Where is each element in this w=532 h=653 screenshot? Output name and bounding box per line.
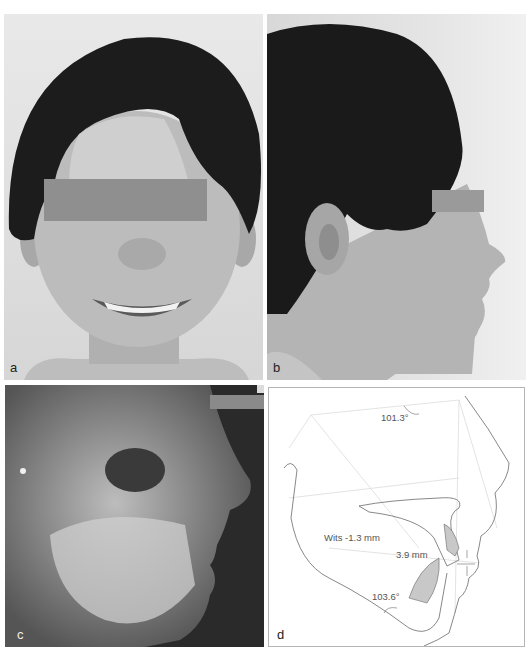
overjet-label: 3.9 mm	[396, 549, 428, 560]
panel-cephalometric-radiograph: c	[5, 385, 264, 647]
panel-label-d: d	[277, 628, 284, 641]
xray-illustration	[5, 385, 264, 647]
panel-label-a: a	[10, 361, 17, 374]
angle-bottom-label: 103.6°	[372, 591, 400, 602]
wits-label: Wits -1.3 mm	[324, 532, 380, 543]
profile-face-illustration	[267, 14, 526, 380]
panel-label-c: c	[17, 628, 24, 641]
panel-profile-photo: b	[267, 14, 526, 380]
frontal-face-illustration	[4, 14, 263, 380]
panel-label-b: b	[273, 361, 280, 374]
eye-mask-bar	[432, 190, 484, 212]
eye-mask-bar	[44, 179, 207, 221]
tracing-drawing: 101.3° Wits -1.3 mm 3.9 mm 103.6°	[269, 388, 524, 646]
angle-top-label: 101.3°	[381, 412, 409, 423]
panel-frontal-photo: a	[4, 14, 263, 380]
panel-cephalometric-tracing: 101.3° Wits -1.3 mm 3.9 mm 103.6° d	[268, 387, 525, 647]
